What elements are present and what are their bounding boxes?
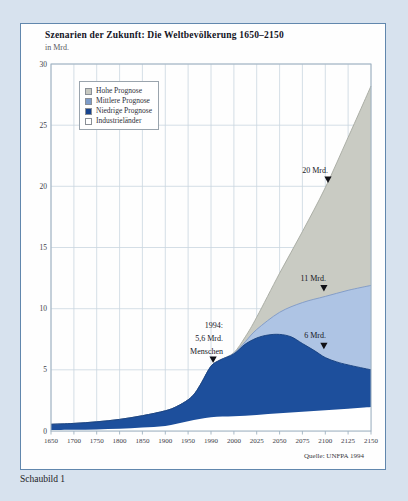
legend-item-hohe-prognose: Hohe Prognose [85, 86, 154, 96]
x-axis-tick-label: 2050 [273, 437, 288, 445]
legend-label: Mittlere Prognose [96, 96, 150, 106]
legend-item-industrielaender: Industrieländer [85, 116, 154, 126]
annotation-label: 20 Mrd. [302, 166, 328, 175]
page-background: 0510152025301650170017501800185019001950… [0, 0, 408, 501]
y-axis-tick-label: 10 [40, 304, 48, 313]
chart-title: Szenarien der Zukunft: Die Weltbevölkeru… [45, 30, 284, 40]
chart-unit-label: in Mrd. [45, 43, 69, 52]
x-axis-tick-label: 2100 [318, 437, 333, 445]
x-axis-tick-label: 1950 [181, 437, 196, 445]
x-axis-tick-label: 2075 [295, 437, 310, 445]
legend-swatch-icon [85, 88, 92, 95]
y-axis-tick-label: 0 [43, 427, 47, 436]
figure-caption: Schaubild 1 [20, 474, 65, 484]
legend-swatch-icon [85, 118, 92, 125]
chart-card: 0510152025301650170017501800185019001950… [20, 23, 386, 470]
y-axis-tick-label: 20 [40, 182, 48, 191]
legend-item-mittlere-prognose: Mittlere Prognose [85, 96, 154, 106]
x-axis-tick-label: 2000 [227, 437, 242, 445]
legend-label: Industrieländer [96, 116, 141, 126]
legend-item-niedrige-prognose: Niedrige Prognose [85, 106, 154, 116]
legend-label: Hohe Prognose [96, 86, 142, 96]
x-axis-tick-label: 1700 [67, 437, 82, 445]
annotation-label: Menschen [190, 347, 223, 356]
x-axis-tick-label: 1800 [113, 437, 128, 445]
legend-swatch-icon [85, 108, 92, 115]
x-axis-tick-label: 2150 [364, 437, 379, 445]
y-axis-tick-label: 25 [40, 121, 48, 130]
source-note: Quelle: UNFPA 1994 [304, 452, 364, 460]
x-axis-tick-label: 2025 [250, 437, 265, 445]
annotation-label: 5,6 Mrd. [195, 334, 223, 343]
y-axis-tick-label: 15 [40, 243, 48, 252]
x-axis-tick-label: 1990 [204, 437, 219, 445]
legend-swatch-icon [85, 98, 92, 105]
x-axis-tick-label: 1900 [158, 437, 173, 445]
annotation-label: 6 Mrd. [304, 331, 326, 340]
chart-legend: Hohe Prognose Mittlere Prognose Niedrige… [79, 81, 159, 130]
y-axis-tick-label: 30 [40, 60, 48, 69]
x-axis-tick-label: 1750 [90, 437, 105, 445]
annotation-label: 11 Mrd. [301, 274, 326, 283]
x-axis-tick-label: 1850 [135, 437, 150, 445]
y-axis-tick-label: 5 [43, 365, 47, 374]
population-chart: 0510152025301650170017501800185019001950… [21, 24, 387, 471]
x-axis-tick-label: 1650 [44, 437, 59, 445]
annotation-label: 1994: [205, 321, 223, 330]
x-axis-tick-label: 2125 [341, 437, 356, 445]
legend-label: Niedrige Prognose [96, 106, 152, 116]
